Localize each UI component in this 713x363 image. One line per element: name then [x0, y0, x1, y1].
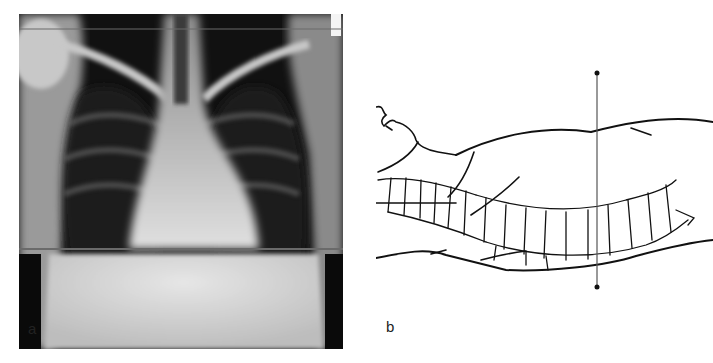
reference-point-top — [595, 71, 600, 76]
chest-xray-panel — [19, 14, 343, 349]
reference-point-bottom — [595, 285, 600, 290]
spine-drawing-panel — [376, 60, 713, 310]
panel-label-a: a — [28, 320, 36, 337]
panel-label-b: b — [386, 318, 394, 335]
chest-xray-image — [19, 14, 343, 349]
spine-drawing — [376, 60, 713, 310]
